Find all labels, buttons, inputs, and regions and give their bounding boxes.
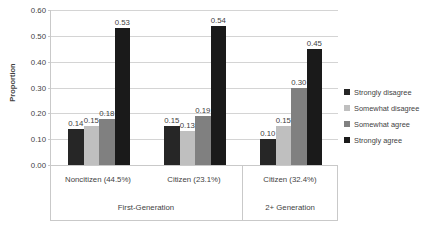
bar-slot: 0.10 bbox=[260, 10, 276, 165]
bar[interactable] bbox=[195, 116, 211, 165]
y-axis-tick-labels: 0.000.100.200.300.400.500.60 bbox=[14, 10, 46, 165]
legend-item[interactable]: Strongly disagree bbox=[344, 84, 428, 100]
y-axis-tick-label: 0.20 bbox=[14, 109, 46, 118]
y-axis-tick-label: 0.60 bbox=[14, 6, 46, 15]
bar-value-label: 0.54 bbox=[211, 16, 226, 25]
chart-legend: Strongly disagreeSomewhat disagreeSomewh… bbox=[344, 84, 428, 148]
x-axis-category-tier: Noncitizen (44.5%)Citizen (23.1%)Citizen… bbox=[50, 165, 338, 193]
bar-value-label: 0.15 bbox=[276, 116, 291, 125]
legend-item[interactable]: Somewhat disagree bbox=[344, 100, 428, 116]
y-axis-tick-label: 0.40 bbox=[14, 57, 46, 66]
bar[interactable] bbox=[260, 139, 276, 165]
bar-value-label: 0.53 bbox=[115, 18, 130, 27]
bar[interactable] bbox=[291, 88, 307, 166]
plot-area: 0.140.150.180.530.150.130.190.540.100.15… bbox=[50, 10, 338, 165]
bar[interactable] bbox=[115, 28, 131, 165]
legend-item[interactable]: Strongly agree bbox=[344, 132, 428, 148]
x-axis: Noncitizen (44.5%)Citizen (23.1%)Citizen… bbox=[50, 165, 338, 221]
bar[interactable] bbox=[164, 126, 180, 165]
y-axis-tick-label: 0.50 bbox=[14, 31, 46, 40]
bar-slot: 0.15 bbox=[84, 10, 100, 165]
x-axis-category-label: Noncitizen (44.5%) bbox=[50, 165, 146, 193]
y-axis-tick-label: 0.30 bbox=[14, 83, 46, 92]
legend-swatch-icon bbox=[344, 105, 350, 111]
bar-group: 0.100.150.300.45 bbox=[243, 10, 339, 165]
bar-group: 0.150.130.190.54 bbox=[147, 10, 243, 165]
bar-value-label: 0.15 bbox=[84, 116, 99, 125]
bar[interactable] bbox=[180, 131, 196, 165]
bar-slot: 0.45 bbox=[307, 10, 323, 165]
bar-value-label: 0.15 bbox=[164, 116, 179, 125]
bar-value-label: 0.45 bbox=[307, 39, 322, 48]
bar-value-label: 0.30 bbox=[291, 78, 306, 87]
legend-label: Strongly agree bbox=[354, 136, 402, 145]
bar-slot: 0.54 bbox=[211, 10, 227, 165]
bar-slot: 0.15 bbox=[164, 10, 180, 165]
bar-value-label: 0.14 bbox=[68, 119, 83, 128]
bar[interactable] bbox=[276, 126, 292, 165]
x-axis-group-label: 2+ Generation bbox=[242, 193, 338, 221]
legend-label: Somewhat agree bbox=[354, 120, 410, 129]
legend-swatch-icon bbox=[344, 137, 350, 143]
bar-slot: 0.30 bbox=[291, 10, 307, 165]
legend-item[interactable]: Somewhat agree bbox=[344, 116, 428, 132]
bar-value-label: 0.19 bbox=[195, 106, 210, 115]
legend-label: Somewhat disagree bbox=[354, 104, 419, 113]
bar[interactable] bbox=[99, 119, 115, 166]
legend-label: Strongly disagree bbox=[354, 88, 412, 97]
x-axis-category-label: Citizen (32.4%) bbox=[242, 165, 338, 193]
bar-value-label: 0.10 bbox=[260, 129, 275, 138]
bar[interactable] bbox=[68, 129, 84, 165]
bar[interactable] bbox=[307, 49, 323, 165]
bar-slot: 0.18 bbox=[99, 10, 115, 165]
grouped-bar-chart: Proportion 0.000.100.200.300.400.500.60 … bbox=[0, 0, 428, 232]
x-axis-group-divider bbox=[242, 165, 243, 221]
bar-value-label: 0.13 bbox=[180, 121, 195, 130]
x-axis-group-label: First-Generation bbox=[50, 193, 242, 221]
bar-group: 0.140.150.180.53 bbox=[51, 10, 147, 165]
bar-slot: 0.19 bbox=[195, 10, 211, 165]
bar-slot: 0.13 bbox=[180, 10, 196, 165]
y-axis-tick-label: 0.00 bbox=[14, 161, 46, 170]
y-axis-tick-label: 0.10 bbox=[14, 135, 46, 144]
x-axis-group-tier: First-Generation2+ Generation bbox=[50, 193, 338, 221]
bars-layer: 0.140.150.180.530.150.130.190.540.100.15… bbox=[51, 10, 338, 165]
bar-value-label: 0.18 bbox=[99, 109, 114, 118]
legend-swatch-icon bbox=[344, 89, 350, 95]
bar-slot: 0.14 bbox=[68, 10, 84, 165]
bar-slot: 0.15 bbox=[276, 10, 292, 165]
bar[interactable] bbox=[211, 26, 227, 166]
bar-slot: 0.53 bbox=[115, 10, 131, 165]
x-axis-category-label: Citizen (23.1%) bbox=[146, 165, 242, 193]
legend-swatch-icon bbox=[344, 121, 350, 127]
bar[interactable] bbox=[84, 126, 100, 165]
